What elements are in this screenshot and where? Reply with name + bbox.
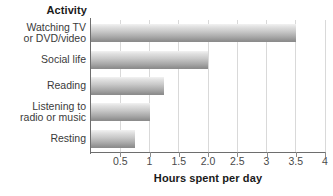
- x-tick-label: 2.0: [201, 155, 216, 167]
- x-tick-label: 1: [147, 155, 153, 167]
- x-axis-title: Hours spent per day: [91, 172, 325, 184]
- bar: [91, 130, 135, 148]
- plot-area: [91, 20, 325, 152]
- category-label: Watching TV or DVD/video: [0, 22, 86, 45]
- bar: [91, 77, 164, 95]
- bar: [91, 51, 208, 69]
- y-axis-line: [90, 18, 91, 154]
- category-label: Social life: [0, 54, 86, 66]
- x-tick-label: 4: [322, 155, 328, 167]
- bar: [91, 24, 296, 42]
- x-tick-label: 1.5: [171, 155, 186, 167]
- category-label: Reading: [0, 80, 86, 92]
- x-tick-label: 3.5: [288, 155, 303, 167]
- chart-title: Activity: [0, 4, 87, 16]
- x-tick-label: 2.5: [230, 155, 245, 167]
- x-tick-label: 3: [264, 155, 270, 167]
- gridline: [325, 20, 326, 152]
- bar-chart: Activity 0.511.52.02.533.54 Watching TV …: [0, 0, 333, 196]
- bar: [91, 103, 150, 121]
- category-label: Listening to radio or music: [0, 101, 86, 124]
- x-tick-label: 0.5: [113, 155, 128, 167]
- category-label: Resting: [0, 133, 86, 145]
